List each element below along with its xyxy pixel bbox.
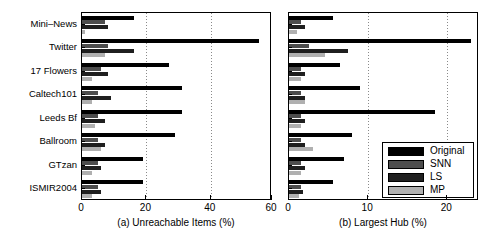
legend-row-original: Original [388,147,470,156]
bar-ls [82,96,111,100]
bar-ls [289,190,303,194]
bar-snn [82,44,108,48]
legend-swatch-mp [388,186,424,195]
bar-original [82,16,134,20]
y-tick-mark [81,118,85,119]
bar-ls [82,119,105,123]
x-axis-label-a: (a) Unreachable Items (%) [117,217,234,228]
x-tick-label: 0 [285,202,291,214]
bar-group [289,107,477,131]
bar-group [82,154,270,178]
bar-mp [289,53,325,57]
bar-mp [82,194,92,198]
bar-group [82,107,270,131]
y-tick-mark [288,165,292,166]
bar-mp [289,77,301,81]
bar-ls [82,190,101,194]
bar-original [82,86,182,90]
bar-group [82,60,270,84]
bar-original [289,133,352,137]
bar-ls [82,166,101,170]
bar-snn [82,20,105,24]
bar-ls [82,49,134,53]
y-tick-mark [288,47,292,48]
bar-mp [82,30,85,34]
x-tick-mark [288,195,289,200]
y-tick-mark [81,71,85,72]
bar-mp [289,100,305,104]
plot-area-a [82,13,270,199]
x-tick-mark [367,195,368,200]
bar-mp [289,124,301,128]
bar-ls [82,143,105,147]
bar-mp [289,30,297,34]
bar-mp [82,147,101,151]
y-tick-label: Leeds Bf [40,113,78,123]
x-tick-label: 20 [441,202,452,214]
bar-group [289,84,477,108]
y-axis-labels: Mini–News Twitter 17 Flowers Caltech101 … [0,12,77,200]
bar-original [82,110,182,114]
y-tick-mark [288,118,292,119]
bar-group [82,13,270,37]
bar-ls [289,119,305,123]
bar-original [82,133,175,137]
bar-mp [289,171,301,175]
legend-label-ls: LS [430,171,442,183]
legend-swatch-snn [388,160,424,169]
bar-ls [289,166,305,170]
legend-row-mp: MP [388,186,470,195]
bar-original [289,86,360,90]
bar-ls [289,25,305,29]
y-tick-label: Mini–News [31,19,77,29]
bar-group [289,13,477,37]
bar-mp [82,53,105,57]
y-tick-mark [81,188,85,189]
y-tick-label: GTzan [48,160,77,170]
y-tick-mark [288,24,292,25]
y-tick-label: Caltech101 [29,89,77,99]
bar-ls [289,143,305,147]
bar-original [82,180,143,184]
y-tick-mark [288,94,292,95]
legend-row-ls: LS [388,173,470,182]
x-axis-ticks-b: 01020 [0,202,503,216]
legend-label-snn: SNN [430,158,451,170]
bar-ls [82,72,108,76]
panel-a-unreachable-items [81,12,271,200]
y-tick-mark [81,165,85,166]
bar-mp [289,147,313,151]
bar-original [82,157,143,161]
bar-ls [82,25,108,29]
bar-original [289,16,333,20]
bar-original [289,63,340,67]
bar-group [289,37,477,61]
bar-group [82,131,270,155]
legend-swatch-ls [388,173,424,182]
y-tick-label: Twitter [49,42,77,52]
y-tick-mark [288,188,292,189]
bar-original [289,110,435,114]
x-tick-mark [210,195,211,200]
y-tick-mark [81,24,85,25]
x-tick-label: 10 [362,202,373,214]
y-tick-label: ISMIR2004 [29,183,77,193]
x-tick-mark [271,195,272,200]
bar-group [82,178,270,200]
y-tick-mark [288,71,292,72]
x-axis-label-b: (b) Largest Hub (%) [339,217,427,228]
bar-mp [289,194,299,198]
y-tick-mark [288,141,292,142]
x-tick-mark [446,195,447,200]
bar-group [289,60,477,84]
legend-label-original: Original [430,145,464,157]
bar-group [82,37,270,61]
y-tick-mark [81,141,85,142]
legend: Original SNN LS MP [382,142,474,198]
bar-mp [82,100,92,104]
x-tick-mark [145,195,146,200]
y-tick-mark [81,47,85,48]
bar-original [82,63,169,67]
bar-original [289,39,471,43]
bar-group [82,84,270,108]
